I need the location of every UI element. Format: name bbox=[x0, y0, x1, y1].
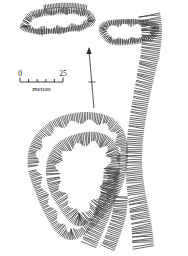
hachure-stroke bbox=[140, 37, 141, 42]
hachure-stroke bbox=[130, 119, 146, 121]
hachure-stroke bbox=[28, 157, 37, 158]
scale-bar-min-label: 0 bbox=[18, 69, 22, 78]
hachure-stroke bbox=[138, 19, 139, 24]
hachure-stroke bbox=[126, 157, 142, 158]
hachure-stroke bbox=[126, 165, 143, 166]
hachure-stroke bbox=[46, 165, 55, 166]
hachure-stroke bbox=[47, 4, 48, 9]
arrow-shaft bbox=[89, 51, 94, 108]
hachure-stroke bbox=[84, 5, 85, 10]
hachure-stroke bbox=[129, 123, 145, 125]
hachure-stroke bbox=[84, 112, 85, 122]
hachure-stroke bbox=[83, 4, 84, 9]
hachure-stroke bbox=[46, 171, 59, 172]
hachure-stroke bbox=[94, 113, 95, 122]
hachure-stroke bbox=[127, 141, 143, 142]
hachure-stroke bbox=[94, 132, 95, 141]
hachure-stroke bbox=[126, 145, 142, 146]
scale-bar-max-label: 25 bbox=[59, 69, 67, 78]
hachure-stroke bbox=[113, 206, 127, 207]
hachure-stroke bbox=[111, 158, 120, 159]
hachure-stroke bbox=[102, 30, 107, 31]
hachure-stroke bbox=[75, 3, 76, 8]
hachure-stroke bbox=[134, 38, 135, 43]
hachure-stroke bbox=[107, 166, 119, 167]
hachure-stroke bbox=[130, 118, 146, 120]
hachure-stroke bbox=[28, 153, 35, 154]
hachure-stroke bbox=[80, 229, 84, 235]
hachure-stroke bbox=[128, 131, 144, 132]
hachure-stroke bbox=[90, 112, 91, 119]
hachure-stroke bbox=[127, 143, 143, 144]
hachure-stroke bbox=[126, 153, 142, 154]
plan-canvas: 0 25 metres bbox=[0, 0, 188, 256]
hachure-stroke bbox=[126, 182, 143, 183]
hachure-stroke bbox=[129, 121, 145, 123]
hachure-stroke bbox=[51, 121, 55, 127]
hachure-stroke bbox=[92, 112, 93, 120]
hachure-stroke bbox=[137, 39, 138, 44]
hachure-stroke bbox=[126, 169, 143, 171]
hachure-stroke bbox=[79, 112, 81, 123]
hachure-stroke bbox=[68, 27, 69, 31]
hachure-stroke bbox=[119, 167, 127, 168]
hachure-stroke bbox=[113, 205, 127, 206]
hachure-stroke bbox=[28, 162, 39, 163]
hachure-stroke bbox=[113, 39, 114, 44]
hachure-stroke bbox=[126, 174, 143, 176]
hachure-stroke bbox=[53, 11, 54, 15]
hachure-stroke bbox=[128, 195, 146, 199]
eastern-linear-bank bbox=[125, 13, 162, 249]
hachure-stroke bbox=[126, 176, 143, 178]
hachure-stroke bbox=[60, 9, 61, 15]
hachure-stroke bbox=[78, 4, 79, 9]
hachure-stroke bbox=[111, 21, 112, 25]
hachure-stroke bbox=[119, 145, 128, 146]
hachure-stroke bbox=[127, 189, 145, 191]
hachure-stroke bbox=[121, 149, 128, 150]
hachure-stroke bbox=[110, 163, 120, 164]
hachure-stroke bbox=[50, 4, 51, 9]
hachure-stroke bbox=[117, 19, 118, 26]
hachure-stroke bbox=[97, 113, 98, 124]
hachure-stroke bbox=[95, 113, 96, 123]
hachure-stroke bbox=[116, 39, 117, 45]
hachure-stroke bbox=[52, 4, 53, 9]
north-west-oval-enclosure bbox=[20, 3, 96, 36]
hachure-stroke bbox=[126, 161, 142, 162]
hachure-stroke bbox=[80, 4, 81, 9]
hachure-stroke bbox=[127, 184, 144, 187]
hachure-stroke bbox=[109, 165, 120, 166]
direction-arrow bbox=[86, 47, 95, 108]
hachure-stroke bbox=[113, 21, 114, 25]
hachure-stroke bbox=[81, 112, 83, 124]
hachure-stroke bbox=[46, 167, 55, 168]
hachure-stroke bbox=[104, 33, 108, 35]
hachure-stroke bbox=[82, 112, 83, 123]
hachure-stroke bbox=[113, 203, 127, 204]
scale-bar-ticks bbox=[20, 78, 63, 83]
hachure-stroke bbox=[132, 242, 153, 243]
scale-bar-unit-label: metres bbox=[32, 85, 51, 93]
hachure-stroke bbox=[133, 98, 149, 101]
hachure-stroke bbox=[49, 4, 50, 9]
hachure-stroke bbox=[126, 159, 142, 160]
hachure-stroke bbox=[42, 128, 50, 136]
hachure-stroke bbox=[127, 139, 143, 140]
arrow-head bbox=[86, 47, 91, 54]
hachure-stroke bbox=[66, 27, 67, 32]
hachure-stroke bbox=[106, 233, 119, 237]
hachure-stroke bbox=[36, 191, 45, 195]
hachure-stroke bbox=[95, 132, 97, 141]
scale-bar: 0 25 metres bbox=[18, 69, 67, 94]
hachure-stroke bbox=[88, 132, 89, 145]
hachure-stroke bbox=[126, 167, 143, 169]
hachure-stroke bbox=[119, 168, 126, 169]
hachure-stroke bbox=[43, 9, 44, 14]
hachure-stroke bbox=[77, 3, 78, 8]
hachure-stroke bbox=[47, 163, 56, 164]
hachure-stroke bbox=[70, 27, 71, 31]
hachure-stroke bbox=[71, 27, 72, 31]
hachure-stroke bbox=[74, 113, 75, 122]
hachure-stroke bbox=[113, 209, 127, 210]
